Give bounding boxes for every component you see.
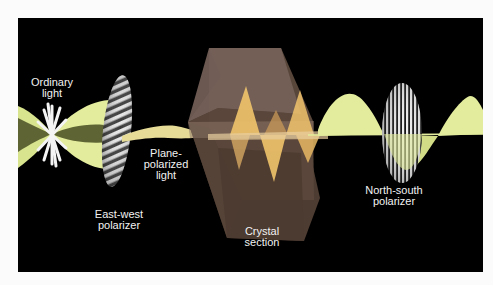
north-south-polarizer-icon [382,83,422,183]
label-plane-polarized-light: Plane- polarized light [144,148,189,181]
diagram-panel: Ordinary light East-west polarizer Plane… [18,18,483,272]
label-east-west-polarizer: East-west polarizer [95,209,143,231]
crystal-section-icon [188,48,328,241]
label-north-south-polarizer: North-south polarizer [365,185,422,207]
label-crystal-section: Crystal section [245,226,280,248]
east-west-polarizer-icon [97,74,137,188]
label-ordinary-light: Ordinary light [31,77,73,99]
